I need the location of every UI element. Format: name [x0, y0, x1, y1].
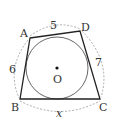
- center-point: [55, 66, 58, 69]
- side-length-dc: 7: [95, 56, 102, 69]
- geometry-diagram: A D B C O 5 6 7 x: [0, 0, 114, 125]
- side-length-ad: 5: [50, 19, 57, 32]
- vertex-label-d: D: [81, 21, 90, 34]
- side-length-ab: 6: [9, 63, 16, 76]
- vertex-label-c: C: [99, 101, 107, 114]
- center-label-o: O: [53, 73, 62, 86]
- side-length-bc: x: [56, 107, 63, 120]
- vertex-label-a: A: [19, 27, 29, 40]
- vertex-label-b: B: [11, 101, 19, 114]
